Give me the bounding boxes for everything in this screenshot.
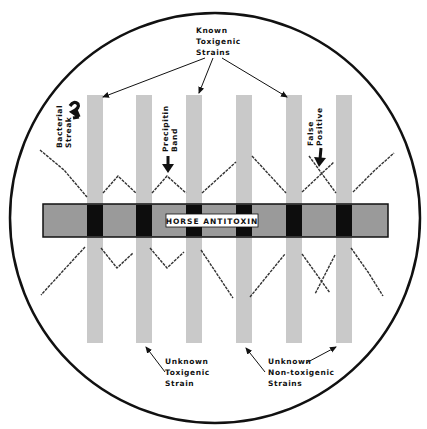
strip-band-intersection-2 (136, 205, 152, 236)
unknown-non-toxigenic-label-line2: Non-toxigenic (268, 368, 335, 377)
precipitin-band-label-line1: Precipitin (161, 105, 170, 152)
immunodiffusion-diagram: HORSE ANTITOXIN Known Toxigenic Strains … (0, 0, 427, 429)
unknown-toxigenic-label-line1: Unknown (165, 357, 208, 366)
bacterial-streak-label-line2: Streak (64, 116, 73, 148)
strip-band-intersection-6 (336, 205, 352, 236)
unknown-non-toxigenic-label-line3: Strains (268, 379, 302, 388)
false-positive-label-line1: False (306, 121, 315, 146)
false-positive-label-line2: Positive (315, 107, 324, 146)
bacterial-streak-label-line1: Bacterial (55, 105, 64, 148)
precipitin-band-label-line2: Band (170, 128, 179, 152)
strip-band-intersection-5 (286, 205, 302, 236)
unknown-toxigenic-label-line3: Strain (165, 379, 194, 388)
antitoxin-label: HORSE ANTITOXIN (166, 217, 259, 226)
unknown-toxigenic-label-line2: Toxigenic (165, 368, 210, 377)
known-toxigenic-label-line3: Strains (196, 48, 230, 57)
strip-band-intersection-1 (87, 205, 103, 236)
known-toxigenic-label-line2: Toxigenic (196, 37, 241, 46)
known-toxigenic-label-line1: Known (196, 26, 228, 35)
unknown-non-toxigenic-label-line1: Unknown (268, 357, 311, 366)
